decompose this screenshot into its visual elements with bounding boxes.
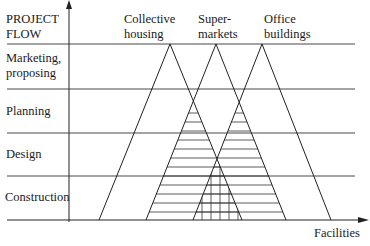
phase-label-line: Construction: [5, 190, 70, 205]
y-axis-title: PROJECT FLOW: [6, 12, 59, 42]
arrow-up-icon: [66, 0, 72, 9]
facility-label-line: markets: [198, 27, 238, 42]
phase-label-line: proposing: [6, 66, 61, 81]
facility-label-line: Office: [264, 12, 311, 27]
phase-label-marketing: Marketing, proposing: [6, 51, 61, 81]
y-axis-title-line2: FLOW: [6, 27, 59, 42]
y-axis-title-line1: PROJECT: [6, 12, 59, 27]
facility-label-line: housing: [124, 27, 175, 42]
phase-label-line: Planning: [6, 104, 50, 119]
facility-label-collective-housing: Collective housing: [124, 12, 175, 42]
phase-label-design: Design: [6, 147, 41, 162]
x-axis: [7, 217, 369, 223]
phase-label-planning: Planning: [6, 104, 50, 119]
x-axis-title: Facilities: [314, 226, 360, 241]
facility-label-line: Collective: [124, 12, 175, 27]
phase-label-line: Marketing,: [6, 51, 61, 66]
phase-label-construction: Construction: [5, 190, 70, 205]
overlap-hatch-supermarkets-office: [140, 113, 340, 212]
y-axis: [66, 0, 72, 222]
overlap-hatch-housing-supermarkets: [100, 113, 300, 212]
facility-label-line: Super-: [198, 12, 238, 27]
phase-label-line: Design: [6, 147, 41, 162]
facility-label-supermarkets: Super- markets: [198, 12, 238, 42]
facility-label-office-buildings: Office buildings: [264, 12, 311, 42]
arrow-right-icon: [358, 217, 369, 223]
facility-label-line: buildings: [264, 27, 311, 42]
